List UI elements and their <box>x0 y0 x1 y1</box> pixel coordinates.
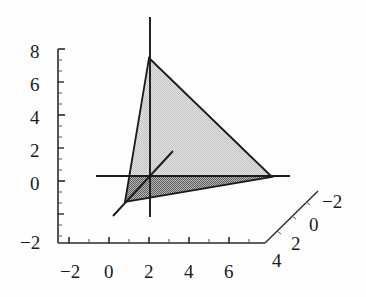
y-tick-label: −2 <box>322 192 342 211</box>
z-tick-label: 4 <box>30 108 40 127</box>
x-tick-label: 4 <box>184 262 194 281</box>
x-tick-label: 6 <box>224 262 234 281</box>
z-tick-label: −2 <box>20 233 40 252</box>
plot-canvas <box>0 0 366 297</box>
x-tick-label: −2 <box>60 262 80 281</box>
x-axis-spine <box>58 237 265 243</box>
z-tick-label: 8 <box>30 42 40 61</box>
y-tick-label: 2 <box>291 234 301 253</box>
z-tick-label: 0 <box>30 174 40 193</box>
x-tick-label: 0 <box>104 262 114 281</box>
z-tick-label: 6 <box>30 75 40 94</box>
x-tick-label: 2 <box>144 262 154 281</box>
y-tick-label: 0 <box>309 215 319 234</box>
z-tick-label: 2 <box>30 141 40 160</box>
y-tick-label: 4 <box>272 251 282 270</box>
z-axis-spine <box>58 49 65 243</box>
